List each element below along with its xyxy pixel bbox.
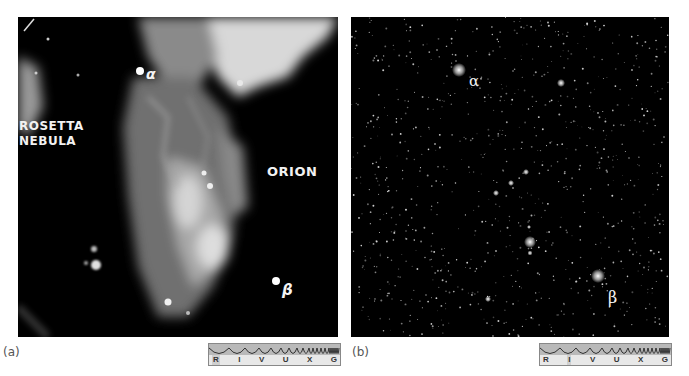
- rosetta-nebula-label-line2: NEBULA: [19, 134, 76, 148]
- band-i: I: [567, 355, 571, 365]
- band-u: U: [614, 355, 620, 365]
- alpha-star-label: α: [469, 72, 479, 90]
- band-r: R: [212, 355, 220, 365]
- band-u: U: [283, 355, 289, 365]
- panel-a-spectrum-bar: R I V U X G: [208, 343, 341, 366]
- wave-graphic: [209, 344, 340, 355]
- band-v: V: [259, 355, 264, 365]
- band-v: V: [590, 355, 595, 365]
- beta-star-label: β: [282, 281, 293, 299]
- panel-a-nebula-image: ROSETTA NEBULA ORION α β: [18, 17, 338, 337]
- band-x: X: [307, 355, 312, 365]
- panel-b-starfield-image: α β: [351, 17, 669, 337]
- band-letters: R I V U X G: [209, 355, 340, 365]
- wave-graphic: [540, 344, 671, 355]
- panel-a-caption: (a): [3, 345, 20, 359]
- band-i: I: [238, 355, 240, 365]
- panel-b-caption: (b): [352, 345, 369, 359]
- rosetta-nebula-label-line1: ROSETTA: [19, 119, 84, 133]
- band-letters: R I V U X G: [540, 355, 671, 365]
- orion-label: ORION: [267, 165, 317, 179]
- panel-b-spectrum-bar: R I V U X G: [539, 343, 672, 366]
- alpha-star-label: α: [146, 66, 156, 82]
- band-g: G: [331, 355, 337, 365]
- beta-star-label: β: [608, 288, 617, 307]
- band-r: R: [543, 355, 549, 365]
- band-x: X: [638, 355, 643, 365]
- starfield-graphic: [351, 17, 669, 337]
- band-g: G: [662, 355, 668, 365]
